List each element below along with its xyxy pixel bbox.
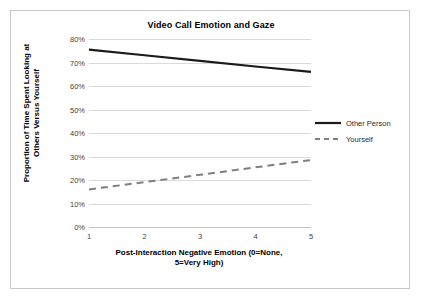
y-axis-tick-label: 0% (45, 223, 85, 232)
x-axis-tick-label: 1 (77, 232, 101, 241)
series-line (89, 160, 311, 189)
x-axis-tick-label: 4 (244, 232, 268, 241)
chart-frame: Video Call Emotion and Gaze Proportion o… (10, 10, 410, 289)
legend-item[interactable]: Other Person (315, 115, 409, 131)
chart-legend: Other PersonYourself (315, 115, 409, 147)
y-axis-tick-label: 30% (45, 152, 85, 161)
x-axis-title-line-2: 5=Very High) (175, 258, 224, 267)
x-axis-tick-label: 2 (133, 232, 157, 241)
chart-title: Video Call Emotion and Gaze (11, 20, 411, 30)
legend-label: Other Person (346, 119, 391, 128)
x-axis-title-line-1: Post-Interaction Negative Emotion (0=Non… (116, 248, 283, 257)
series-line (89, 50, 311, 72)
plot-area: 0%10%20%30%40%50%60%70%80% 12345 (89, 39, 311, 227)
y-axis-tick-label: 60% (45, 82, 85, 91)
x-axis-tick-label: 5 (299, 232, 323, 241)
legend-item[interactable]: Yourself (315, 131, 409, 147)
y-axis-tick-label: 80% (45, 35, 85, 44)
y-axis-title-line-1: Proportion of Time Spent Looking at (22, 44, 31, 183)
legend-swatch-icon (315, 118, 341, 128)
gridline (89, 227, 311, 228)
y-axis-title: Proportion of Time Spent Looking at Othe… (22, 23, 42, 203)
y-axis-tick-label: 50% (45, 105, 85, 114)
y-axis-tick-label: 40% (45, 129, 85, 138)
series-lines (89, 39, 311, 227)
legend-label: Yourself (346, 135, 373, 144)
y-axis-tick-label: 70% (45, 58, 85, 67)
y-axis-tick-label: 10% (45, 199, 85, 208)
y-axis-title-line-2: Others Versus Yourself (32, 69, 41, 157)
x-axis-title: Post-Interaction Negative Emotion (0=Non… (69, 248, 329, 268)
legend-swatch-icon (315, 134, 341, 144)
x-axis-tick-label: 3 (188, 232, 212, 241)
y-axis-tick-label: 20% (45, 176, 85, 185)
